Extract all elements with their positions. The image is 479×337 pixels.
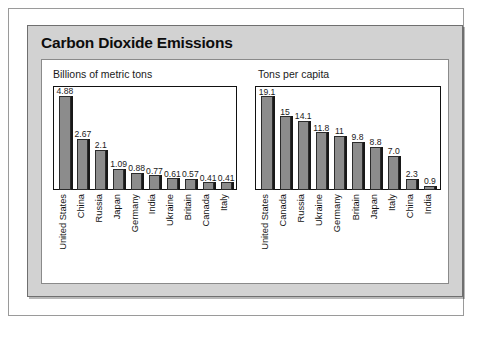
category-tick-label: Britain <box>352 194 361 220</box>
category-slot: United States <box>55 190 73 282</box>
category-tick-label: Germany <box>334 194 343 232</box>
category-slot: Germany <box>329 190 347 282</box>
category-tick-label: China <box>406 194 415 218</box>
category-slot: Germany <box>127 190 145 282</box>
category-slot: Ukraine <box>162 190 180 282</box>
category-slot: China <box>402 190 420 282</box>
category-slot: Italy <box>384 190 402 282</box>
category-tick-label: Italy <box>220 194 229 211</box>
category-tick-label: India <box>149 194 158 214</box>
category-tick-label: Ukraine <box>167 194 176 226</box>
category-slot: India <box>420 190 438 282</box>
category-tick-label: Japan <box>370 194 379 219</box>
category-tick-label: United States <box>59 194 68 250</box>
category-slot: Britain <box>347 190 365 282</box>
category-slot: India <box>145 190 163 282</box>
category-tick-label: Russia <box>95 194 104 222</box>
category-tick-label: Italy <box>388 194 397 211</box>
category-tick-label: Canada <box>279 194 288 227</box>
category-axis-left: United StatesChinaRussiaJapanGermanyIndi… <box>52 190 236 282</box>
category-slot: Canada <box>198 190 216 282</box>
category-axis-right-wrap: United StatesCanadaRussiaUkraineGermanyB… <box>246 59 449 284</box>
category-tick-label: Britain <box>185 194 194 220</box>
category-tick-label: Russia <box>298 194 307 222</box>
category-slot: Ukraine <box>311 190 329 282</box>
category-tick-label: United States <box>261 194 270 250</box>
category-tick-label: Japan <box>113 194 122 219</box>
category-tick-label: India <box>424 194 433 214</box>
category-axis-right: United StatesCanadaRussiaUkraineGermanyB… <box>254 190 440 282</box>
category-tick-label: Germany <box>131 194 140 232</box>
page-title: Carbon Dioxide Emissions <box>41 34 233 52</box>
category-slot: Russia <box>293 190 311 282</box>
category-slot: Canada <box>275 190 293 282</box>
category-slot: Japan <box>366 190 384 282</box>
category-slot: China <box>73 190 91 282</box>
category-slot: Britain <box>180 190 198 282</box>
category-tick-label: Ukraine <box>316 194 325 226</box>
category-slot: Russia <box>91 190 109 282</box>
category-tick-label: Canada <box>203 194 212 227</box>
figure-panel: Carbon Dioxide Emissions Billions of met… <box>27 25 463 297</box>
category-slot: United States <box>257 190 275 282</box>
category-tick-label: China <box>77 194 86 218</box>
category-slot: Japan <box>109 190 127 282</box>
category-slot: Italy <box>216 190 234 282</box>
page-frame: Carbon Dioxide Emissions Billions of met… <box>8 8 464 316</box>
screenshot-root: Carbon Dioxide Emissions Billions of met… <box>0 0 479 337</box>
category-axis-left-wrap: United StatesChinaRussiaJapanGermanyIndi… <box>41 59 246 284</box>
